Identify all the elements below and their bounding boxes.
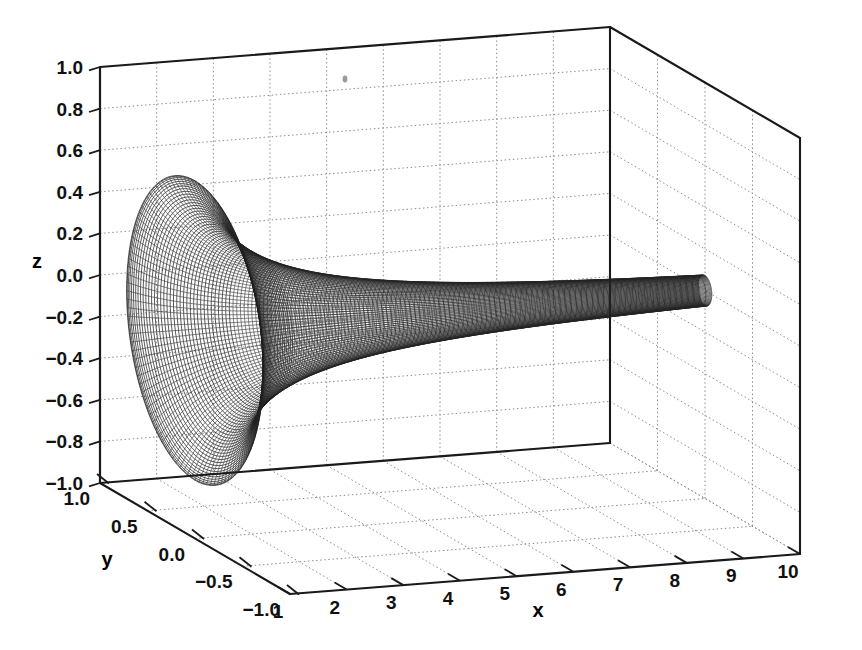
tick-label-y: 0.0 bbox=[159, 544, 185, 565]
grid-floor-x bbox=[553, 447, 743, 558]
tick-z bbox=[89, 109, 100, 112]
tick-z bbox=[89, 441, 100, 444]
plot-3d-svg: 1.00.80.60.40.20.0−0.2−0.4−0.6−0.8−1.01.… bbox=[0, 0, 862, 650]
tick-label-y: 0.5 bbox=[111, 516, 138, 537]
mesh-spoke bbox=[191, 179, 704, 283]
axis-title-z: z bbox=[32, 250, 42, 272]
tick-label-x: 9 bbox=[726, 565, 737, 586]
mesh-spoke bbox=[246, 303, 710, 460]
box-edge-top-right bbox=[610, 27, 800, 138]
tick-z bbox=[89, 275, 100, 278]
tick-x bbox=[618, 560, 630, 567]
tick-label-z: 0.0 bbox=[57, 265, 83, 286]
mesh-spoke bbox=[258, 300, 711, 425]
grid-layer bbox=[100, 27, 800, 594]
axis-title-x: x bbox=[532, 599, 543, 621]
mesh-spoke bbox=[253, 302, 711, 444]
tick-label-z: 0.2 bbox=[57, 223, 83, 244]
horn-mesh-surface bbox=[127, 176, 712, 486]
tick-x bbox=[448, 574, 460, 581]
tick-z bbox=[89, 317, 100, 320]
tick-x bbox=[391, 578, 403, 585]
figure-canvas: 1.00.80.60.40.20.0−0.2−0.4−0.6−0.8−1.01.… bbox=[0, 0, 862, 650]
tick-label-x: 10 bbox=[777, 561, 798, 582]
tick-x bbox=[788, 547, 800, 554]
tick-label-x: 4 bbox=[443, 588, 454, 609]
mesh-spoke bbox=[147, 196, 701, 286]
tick-x bbox=[731, 551, 743, 558]
grid-floor-y bbox=[148, 471, 658, 511]
tick-z bbox=[89, 67, 100, 70]
grid-floor-y bbox=[195, 499, 705, 539]
tick-z bbox=[89, 358, 100, 361]
tick-label-z: −0.2 bbox=[45, 307, 83, 328]
dust-speck-artifact bbox=[343, 76, 348, 83]
tick-z bbox=[89, 400, 100, 403]
tick-x bbox=[561, 565, 573, 572]
tick-label-x: 2 bbox=[329, 597, 340, 618]
axis-title-y: y bbox=[101, 548, 113, 570]
grid-backwall-z bbox=[100, 401, 610, 441]
tick-label-y: −0.5 bbox=[195, 571, 233, 592]
tick-z bbox=[89, 150, 100, 153]
tick-z bbox=[89, 483, 100, 486]
tick-label-z: 1.0 bbox=[57, 57, 83, 78]
axis-line-x bbox=[290, 554, 800, 594]
tick-x bbox=[278, 587, 290, 594]
box-edge-top-back bbox=[100, 27, 610, 67]
mesh-spoke bbox=[165, 178, 702, 283]
mesh-ring bbox=[141, 191, 263, 468]
grid-floor-x bbox=[270, 470, 460, 581]
tick-z bbox=[89, 192, 100, 195]
tick-label-z: 0.4 bbox=[57, 182, 84, 203]
tick-label-z: −0.4 bbox=[45, 348, 83, 369]
tick-label-x: 6 bbox=[556, 579, 567, 600]
tick-label-x: 5 bbox=[499, 583, 510, 604]
mesh-ring bbox=[152, 203, 264, 457]
grid-backwall-z bbox=[100, 152, 610, 192]
mesh-spoke bbox=[162, 180, 702, 283]
tick-label-x: 7 bbox=[613, 574, 624, 595]
mesh-spoke bbox=[155, 185, 701, 284]
tick-label-z: 0.8 bbox=[57, 99, 83, 120]
grid-floor-x bbox=[327, 465, 517, 576]
grid-backwall-z bbox=[100, 110, 610, 150]
mesh-ring bbox=[134, 184, 263, 477]
tick-label-y: 1.0 bbox=[64, 488, 90, 509]
grid-floor-y bbox=[243, 526, 753, 566]
tick-z bbox=[89, 233, 100, 236]
tick-label-z: 0.6 bbox=[57, 140, 83, 161]
grid-floor-x bbox=[157, 479, 347, 590]
tick-x bbox=[335, 583, 347, 590]
tick-label-z: −0.8 bbox=[45, 431, 83, 452]
tick-x bbox=[675, 556, 687, 563]
grid-floor-x bbox=[213, 474, 403, 585]
tick-label-x: 8 bbox=[669, 570, 680, 591]
grid-rightwall-z bbox=[610, 318, 800, 429]
tick-label-x: 1 bbox=[273, 601, 284, 622]
tick-label-x: 3 bbox=[386, 592, 397, 613]
tick-label-z: −0.6 bbox=[45, 390, 83, 411]
grid-backwall-z bbox=[100, 69, 610, 109]
tick-x bbox=[505, 569, 517, 576]
